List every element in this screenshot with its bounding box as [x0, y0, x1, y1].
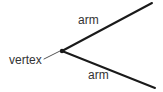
vertex-leader-line [44, 51, 60, 59]
arm-upper-label: arm [78, 14, 99, 26]
vertex-label: vertex [9, 54, 42, 66]
angle-diagram: vertex arm arm [0, 0, 163, 92]
arm-upper-line [62, 3, 152, 51]
vertex-point-dot [60, 49, 64, 53]
arm-lower-label: arm [88, 69, 109, 81]
